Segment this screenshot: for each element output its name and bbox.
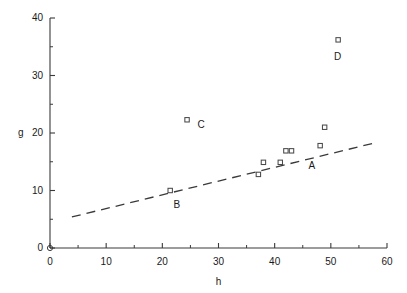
- point-label-b: B: [174, 200, 181, 210]
- x-tick-label: 10: [101, 257, 112, 267]
- x-axis-title: h: [216, 277, 222, 287]
- y-axis-title: g: [18, 128, 24, 138]
- point-label-d: D: [334, 52, 341, 62]
- y-tick-label: 20: [32, 128, 43, 138]
- data-point-marker: [168, 188, 172, 192]
- y-tick-label: 10: [32, 186, 43, 196]
- y-tick-label: 40: [32, 13, 43, 23]
- x-tick-label: 50: [325, 257, 336, 267]
- data-point-marker: [284, 149, 288, 153]
- point-label-a: A: [308, 161, 315, 171]
- y-tick-label: 30: [32, 71, 43, 81]
- data-point-marker: [278, 160, 282, 164]
- scatter-chart: 0102030405060010203040hgABCD: [0, 0, 407, 293]
- y-tick-label: 0: [37, 243, 43, 253]
- data-point-marker: [322, 125, 326, 129]
- data-point-marker: [261, 160, 265, 164]
- data-point-marker: [185, 118, 189, 122]
- x-tick-label: 0: [47, 257, 53, 267]
- x-tick-label: 40: [269, 257, 280, 267]
- plot-canvas: [0, 0, 407, 293]
- data-point-marker: [289, 149, 293, 153]
- data-point-marker: [318, 143, 322, 147]
- trendline-dashed: [72, 143, 375, 217]
- point-label-c: C: [197, 120, 204, 130]
- x-tick-label: 30: [213, 257, 224, 267]
- data-point-marker: [256, 172, 260, 176]
- x-tick-label: 20: [157, 257, 168, 267]
- data-point-marker: [336, 38, 340, 42]
- trendline: [72, 143, 375, 217]
- x-tick-label: 60: [381, 257, 392, 267]
